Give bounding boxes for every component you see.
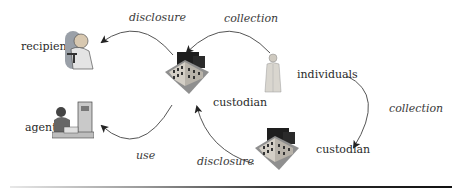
arrow-collection-to-custodian-bottom — [347, 76, 368, 147]
edge-label-use: use — [136, 150, 155, 161]
building-icon — [163, 48, 213, 96]
person-in-coat-icon — [263, 52, 283, 96]
edge-label-disclosure-bottom: disclosure — [197, 156, 254, 167]
recipient-person-icon — [63, 27, 97, 71]
building-icon — [253, 124, 303, 172]
arrow-use-to-agent — [102, 105, 172, 139]
custodian-bottom-label: custodian — [316, 144, 370, 155]
edge-label-collection-right: collection — [389, 103, 443, 114]
agent-at-desk-icon — [52, 100, 94, 144]
bottom-rule — [10, 186, 452, 188]
edge-label-collection-top: collection — [224, 13, 278, 24]
data-flow-diagram: recipient agent custodian — [0, 0, 452, 192]
edge-label-disclosure-recipient: disclosure — [129, 12, 186, 23]
custodian-top-label: custodian — [213, 97, 267, 108]
individuals-label: individuals — [297, 69, 358, 80]
